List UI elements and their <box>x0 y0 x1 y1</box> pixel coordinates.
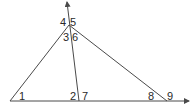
angle-label-9: 9 <box>167 90 173 102</box>
angle-label-7: 7 <box>82 90 88 102</box>
angle-label-6: 6 <box>72 31 78 43</box>
geometry-diagram: 1 2 7 3 6 4 5 8 9 <box>0 0 191 108</box>
angle-label-3: 3 <box>63 31 69 43</box>
angle-label-8: 8 <box>148 90 154 102</box>
angle-label-5: 5 <box>70 16 76 28</box>
angle-label-1: 1 <box>19 90 25 102</box>
angle-label-4: 4 <box>60 16 66 28</box>
angle-label-2: 2 <box>70 90 76 102</box>
